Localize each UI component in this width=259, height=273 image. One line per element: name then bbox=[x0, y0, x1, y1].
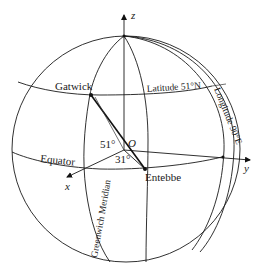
y-axis bbox=[124, 150, 250, 160]
sphere-svg: z x y O Gatwick Entebbe Latitude 51°N Eq… bbox=[0, 0, 259, 273]
y-axis-intersection bbox=[222, 156, 225, 159]
longitude-angle-label: 31° bbox=[115, 153, 130, 165]
entebbe-meridian bbox=[124, 36, 148, 262]
entebbe-label: Entebbe bbox=[145, 171, 181, 183]
equator-label: Equator bbox=[40, 152, 76, 168]
sphere-diagram: z x y O Gatwick Entebbe Latitude 51°N Eq… bbox=[0, 0, 259, 273]
y-axis-label: y bbox=[243, 162, 249, 174]
latitude-angle-label: 51° bbox=[100, 138, 115, 150]
longitude-90e-outer bbox=[124, 36, 234, 252]
longitude-90e-inner bbox=[124, 36, 224, 250]
north-pole-point bbox=[123, 35, 126, 38]
longitude-label: Longitude 90°E bbox=[212, 86, 244, 146]
greenwich-label: Greenwich Meridian bbox=[89, 179, 113, 259]
latitude-label: Latitude 51°N bbox=[146, 80, 201, 94]
origin-label: O bbox=[128, 137, 136, 149]
gatwick-point bbox=[89, 93, 93, 97]
z-axis-label: z bbox=[130, 9, 136, 21]
x-axis-label: x bbox=[64, 180, 70, 192]
gatwick-label: Gatwick bbox=[55, 80, 93, 92]
